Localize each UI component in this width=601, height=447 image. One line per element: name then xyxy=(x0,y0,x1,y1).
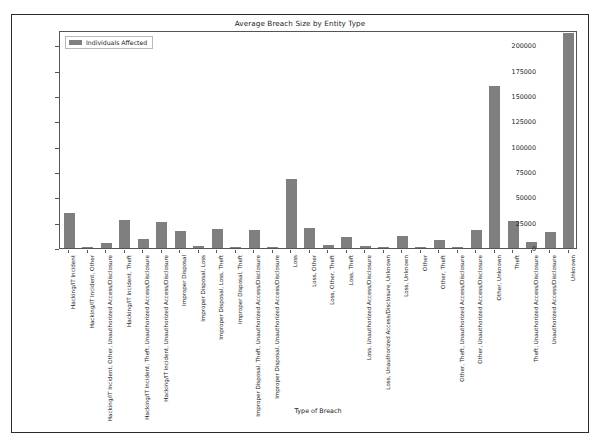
x-axis-tick-label: Hacking/IT Incident, Other, Unauthorized… xyxy=(107,255,113,421)
x-axis-tick-label: Other, Theft xyxy=(440,255,446,289)
x-axis-tick-mark xyxy=(198,250,199,253)
bar xyxy=(138,239,149,248)
x-axis-tick-label: Loss, Other, Theft xyxy=(329,255,335,305)
x-axis-tick-mark xyxy=(235,250,236,253)
bar xyxy=(267,247,278,248)
x-axis-tick-mark xyxy=(253,250,254,253)
x-axis-tick-label: Other xyxy=(422,255,428,271)
x-axis-tick-label: Improper Disposal, Unauthorized Access/D… xyxy=(274,255,280,399)
x-axis-tick-label: Hacking/IT Incident, Unauthorized Access… xyxy=(163,255,169,402)
x-axis-tick-label: Theft, Unauthorized Access/Disclosure xyxy=(533,255,539,362)
bar xyxy=(193,246,204,248)
x-axis-tick-mark xyxy=(438,250,439,253)
y-axis-tick-mark xyxy=(55,224,59,225)
x-axis-tick-label: Loss, Theft xyxy=(348,255,354,285)
x-axis-tick-label: Loss, Unauthorized Access/Disclosure xyxy=(366,255,372,360)
x-axis-tick-mark xyxy=(179,250,180,253)
bar xyxy=(249,230,260,248)
bar xyxy=(230,247,241,248)
x-axis-tick-mark xyxy=(346,250,347,253)
x-axis-tick-label: Other, Unknown xyxy=(496,255,502,300)
bar xyxy=(341,237,352,248)
x-axis-tick-label: Loss, Unauthorized Access/Disclosure, Un… xyxy=(385,255,391,390)
y-axis-tick-label: 25000 xyxy=(516,220,536,228)
x-axis-tick-label: Improper Disposal xyxy=(181,255,187,306)
bar xyxy=(545,232,556,248)
y-axis-tick-label: 50000 xyxy=(516,194,536,202)
bar xyxy=(82,247,93,248)
x-axis-tick-label: Improper Disposal, Theft, Unauthorized A… xyxy=(255,255,261,417)
chart-title: Average Breach Size by Entity Type xyxy=(12,19,588,28)
x-axis-tick-mark xyxy=(290,250,291,253)
y-axis-tick-label: 150000 xyxy=(512,93,536,101)
y-axis-tick-mark xyxy=(55,173,59,174)
x-axis-tick-mark xyxy=(309,250,310,253)
y-axis-tick-label: 100000 xyxy=(512,144,536,152)
x-axis-tick-label: Improper Disposal, Theft xyxy=(237,255,243,324)
y-axis-tick-mark xyxy=(55,97,59,98)
x-axis-tick-label: Improper Disposal, Loss, Theft xyxy=(218,255,224,340)
x-axis-tick-mark xyxy=(161,250,162,253)
y-axis-tick-mark xyxy=(55,72,59,73)
x-axis-tick-mark xyxy=(475,250,476,253)
x-axis-tick-mark xyxy=(364,250,365,253)
bar xyxy=(304,228,315,248)
x-axis-tick-label: Improper Disposal, Loss xyxy=(200,255,206,322)
y-axis-tick-mark xyxy=(55,249,59,250)
y-axis-tick-label: 200000 xyxy=(512,42,536,50)
x-axis-tick-mark xyxy=(68,250,69,253)
x-axis-tick-mark xyxy=(142,250,143,253)
x-axis-title: Type of Breach xyxy=(59,407,577,415)
x-axis-tick-label: Hacking/IT Incident, Theft xyxy=(126,255,132,327)
x-axis-tick-mark xyxy=(272,250,273,253)
x-axis-tick-label: Other, Theft, Unauthorized Access/Disclo… xyxy=(459,255,465,382)
x-axis-tick-label: Theft xyxy=(514,255,520,269)
x-axis-tick-label: Loss, Unknown xyxy=(403,255,409,297)
bar xyxy=(415,247,426,248)
x-axis-tick-mark xyxy=(420,250,421,253)
bar xyxy=(212,229,223,248)
y-axis-tick-label: 75000 xyxy=(516,169,536,177)
bar xyxy=(471,230,482,248)
bar xyxy=(434,240,445,248)
bar xyxy=(119,220,130,248)
x-axis-tick-label: Hacking/IT Incident, Other xyxy=(89,255,95,328)
x-axis-tick-mark xyxy=(124,250,125,253)
bar xyxy=(175,231,186,248)
bar xyxy=(101,243,112,248)
y-axis-tick-mark xyxy=(55,122,59,123)
x-axis-tick-label: Hacking/IT Incident, Theft, Unauthorized… xyxy=(144,255,150,420)
x-axis-tick-label: Other, Unauthorized Access/Disclosure xyxy=(477,255,483,364)
y-axis-tick-mark xyxy=(55,148,59,149)
chart-figure: Average Breach Size by Entity Type Hacki… xyxy=(11,14,589,433)
x-axis-tick-label: Unknown xyxy=(570,255,576,281)
plot-area xyxy=(59,31,577,249)
bar xyxy=(397,236,408,248)
x-axis-tick-mark xyxy=(105,250,106,253)
x-axis-tick-mark xyxy=(457,250,458,253)
x-axis-tick-mark xyxy=(512,250,513,253)
y-axis-tick-mark xyxy=(55,46,59,47)
x-axis-tick-label: Unauthorized Access/Disclosure xyxy=(551,255,557,344)
bar xyxy=(452,247,463,248)
legend-swatch-individuals-affected xyxy=(69,40,82,45)
x-axis-tick-label: Loss xyxy=(292,255,298,267)
bar xyxy=(286,179,297,248)
bar xyxy=(378,247,389,248)
y-axis-tick-label: 125000 xyxy=(512,118,536,126)
bars-layer xyxy=(60,32,576,248)
bar xyxy=(323,245,334,248)
x-axis-tick-label: Hacking/IT Incident xyxy=(70,255,76,309)
legend-label-individuals-affected: Individuals Affected xyxy=(86,39,147,46)
bar xyxy=(64,213,75,248)
bar xyxy=(156,222,167,248)
x-axis-tick-mark xyxy=(216,250,217,253)
x-axis-tick-mark xyxy=(494,250,495,253)
x-axis-tick-mark xyxy=(383,250,384,253)
y-axis-tick-mark xyxy=(55,198,59,199)
y-axis-tick-label: 175000 xyxy=(512,68,536,76)
bar xyxy=(563,33,574,248)
x-axis-tick-mark xyxy=(327,250,328,253)
chart-legend: Individuals Affected xyxy=(65,36,153,49)
bar xyxy=(489,86,500,248)
